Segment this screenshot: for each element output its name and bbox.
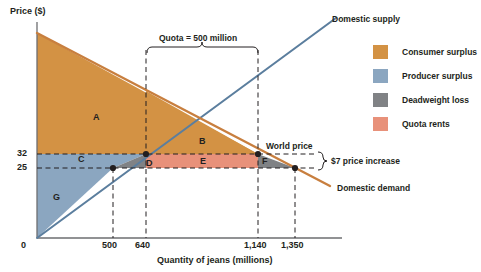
legend-item-producer-surplus: Producer surplus bbox=[373, 69, 477, 83]
quota-graph-figure: Price ($) Quantity of jeans (millions) 0… bbox=[0, 0, 481, 272]
x-tick-1350: 1,350 bbox=[281, 240, 304, 250]
chart-legend: Consumer surplus Producer surplus Deadwe… bbox=[373, 45, 477, 141]
legend-swatch-deadweight-loss bbox=[373, 93, 388, 107]
marker-supply-640 bbox=[143, 151, 149, 157]
domestic-supply-label: Domestic supply bbox=[332, 14, 400, 24]
legend-item-quota-rents: Quota rents bbox=[373, 117, 477, 131]
marker-demand-1350 bbox=[292, 165, 298, 171]
region-g-producer-surplus bbox=[37, 168, 113, 238]
legend-swatch-quota-rents bbox=[373, 117, 388, 131]
legend-item-consumer-surplus: Consumer surplus bbox=[373, 45, 477, 59]
region-label-f: F bbox=[262, 156, 268, 166]
region-label-a: A bbox=[93, 112, 100, 122]
region-label-d: D bbox=[146, 158, 153, 168]
legend-item-deadweight-loss: Deadweight loss bbox=[373, 93, 477, 107]
legend-label-consumer-surplus: Consumer surplus bbox=[402, 47, 477, 57]
y-tick-32: 32 bbox=[17, 148, 27, 158]
quota-annotation-label: Quota = 500 million bbox=[159, 33, 237, 43]
region-label-g: G bbox=[53, 192, 60, 202]
marker-demand-1140 bbox=[255, 151, 261, 157]
legend-label-deadweight-loss: Deadweight loss bbox=[402, 95, 469, 105]
world-price-label: World price bbox=[266, 141, 313, 151]
x-tick-640: 640 bbox=[135, 240, 150, 250]
y-tick-25: 25 bbox=[17, 162, 27, 172]
region-label-e: E bbox=[200, 156, 206, 166]
marker-supply-500 bbox=[110, 165, 116, 171]
x-axis-title: Quantity of jeans (millions) bbox=[157, 255, 273, 265]
quota-bracket bbox=[147, 42, 258, 53]
price-increase-label: $7 price increase bbox=[331, 156, 400, 166]
y-axis-title: Price ($) bbox=[10, 6, 46, 16]
x-tick-500: 500 bbox=[102, 240, 117, 250]
domestic-demand-label: Domestic demand bbox=[337, 183, 410, 193]
legend-swatch-producer-surplus bbox=[373, 69, 388, 83]
x-tick-1140: 1,140 bbox=[244, 240, 267, 250]
x-tick-origin: 0 bbox=[21, 240, 26, 250]
legend-label-producer-surplus: Producer surplus bbox=[402, 71, 472, 81]
legend-swatch-consumer-surplus bbox=[373, 45, 388, 59]
price-increase-bracket bbox=[318, 152, 327, 170]
region-label-b: B bbox=[199, 136, 206, 146]
region-label-c: C bbox=[78, 154, 85, 164]
legend-label-quota-rents: Quota rents bbox=[402, 119, 450, 129]
